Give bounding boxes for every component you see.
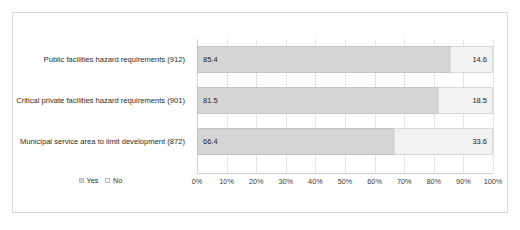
legend-swatch-icon xyxy=(105,178,110,183)
chart-plot-wrapper: Public facilities hazard requirements (9… xyxy=(13,13,507,212)
x-tick-label: 80% xyxy=(426,177,441,186)
x-tick-label: 60% xyxy=(367,177,382,186)
category-label: Municipal service area to limit developm… xyxy=(7,128,185,155)
x-tick-label: 10% xyxy=(219,177,234,186)
x-tick-label: 90% xyxy=(456,177,471,186)
legend-item-no[interactable]: No xyxy=(105,176,122,185)
data-label-yes: 66.4 xyxy=(203,137,218,146)
data-label-no: 33.6 xyxy=(472,137,487,146)
x-axis-tick-labels: 0%10%20%30%40%50%60%70%80%90%100% xyxy=(197,177,493,191)
data-label-no: 14.6 xyxy=(472,55,487,64)
bar-segment-yes[interactable]: 66.4 xyxy=(197,128,394,155)
category-label: Public facilities hazard requirements (9… xyxy=(7,46,185,73)
x-tick-label: 40% xyxy=(308,177,323,186)
data-label-no: 18.5 xyxy=(472,96,487,105)
data-label-yes: 81.5 xyxy=(203,96,218,105)
legend-swatch-icon xyxy=(79,178,84,183)
category-axis-labels: Public facilities hazard requirements (9… xyxy=(13,39,191,173)
bar-rows: 85.4 14.6 81.5 18.5 66.4 xyxy=(197,39,493,173)
table-row[interactable]: 85.4 14.6 xyxy=(197,46,493,73)
chart-legend: Yes No xyxy=(79,176,122,185)
gridline xyxy=(493,39,494,173)
bar-segment-no[interactable]: 14.6 xyxy=(450,46,493,73)
x-tick-label: 50% xyxy=(338,177,353,186)
x-tick-label: 30% xyxy=(278,177,293,186)
x-tick-label: 100% xyxy=(484,177,503,186)
x-tick-label: 70% xyxy=(397,177,412,186)
bar-segment-yes[interactable]: 85.4 xyxy=(197,46,450,73)
legend-item-yes[interactable]: Yes xyxy=(79,176,98,185)
table-row[interactable]: 81.5 18.5 xyxy=(197,87,493,114)
chart-frame: Public facilities hazard requirements (9… xyxy=(12,12,508,213)
bar-segment-no[interactable]: 18.5 xyxy=(438,87,493,114)
bar-segment-no[interactable]: 33.6 xyxy=(394,128,493,155)
table-row[interactable]: 66.4 33.6 xyxy=(197,128,493,155)
legend-label: Yes xyxy=(87,176,99,185)
plot-area: 85.4 14.6 81.5 18.5 66.4 xyxy=(197,39,493,173)
legend-label: No xyxy=(113,176,122,185)
data-label-yes: 85.4 xyxy=(203,55,218,64)
x-tick-label: 20% xyxy=(249,177,264,186)
x-tick-label: 0% xyxy=(192,177,203,186)
bar-segment-yes[interactable]: 81.5 xyxy=(197,87,438,114)
category-label: Critical private facilities hazard requi… xyxy=(7,87,185,114)
x-axis-line xyxy=(197,173,493,174)
